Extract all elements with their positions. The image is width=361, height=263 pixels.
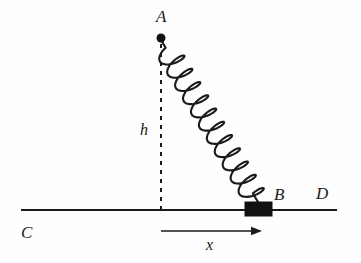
block-b <box>245 202 272 216</box>
label-c: C <box>21 223 33 242</box>
label-d: D <box>315 184 329 203</box>
anchor-point-a <box>157 34 166 43</box>
spring-coil <box>159 40 264 202</box>
label-b: B <box>274 185 285 204</box>
label-x: x <box>205 236 213 253</box>
spring-block-diagram: A B C D h x <box>0 0 361 263</box>
figure-canvas: A B C D h x <box>0 0 361 263</box>
label-a: A <box>155 7 167 26</box>
label-h: h <box>140 121 148 138</box>
displacement-arrow-head <box>251 227 262 235</box>
